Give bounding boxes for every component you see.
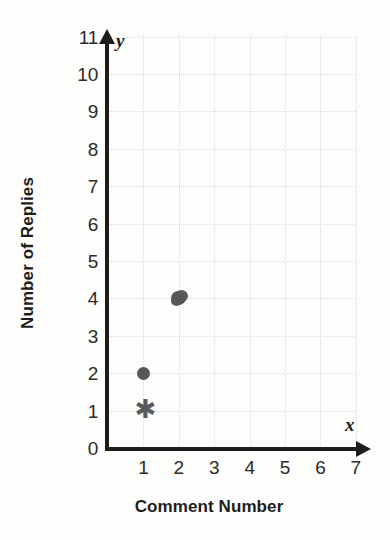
scatter-chart: y x 01234567891011 1234567 ✱ Number of R… — [0, 0, 390, 540]
x-axis-title: Comment Number — [0, 497, 390, 517]
x-tick-label: 7 — [341, 458, 371, 477]
x-tick-label: 1 — [128, 458, 158, 477]
data-point: ✱ — [134, 398, 152, 420]
x-tick-label: 6 — [305, 458, 335, 477]
y-axis-title: Number of Replies — [18, 153, 38, 353]
x-tick-label: 4 — [235, 458, 265, 477]
x-axis-tick-labels: 1234567 — [0, 0, 390, 540]
x-tick-label: 2 — [164, 458, 194, 477]
data-point — [137, 367, 150, 380]
x-tick-label: 3 — [199, 458, 229, 477]
x-tick-label: 5 — [270, 458, 300, 477]
